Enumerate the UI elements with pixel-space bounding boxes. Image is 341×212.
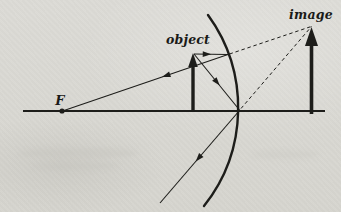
- focal-point-label: F: [55, 93, 64, 108]
- object-arrow-head: [188, 53, 198, 67]
- object-label: object: [166, 32, 210, 47]
- image-arrow-head: [305, 27, 318, 46]
- focal-point-dot: [59, 108, 64, 113]
- image-arrow: [305, 27, 318, 114]
- reflected-ray-through-focus: [64, 55, 228, 111]
- image-label: image: [289, 7, 333, 22]
- object-arrow: [188, 53, 198, 112]
- virtual-ray-extension-upper: [230, 27, 312, 55]
- incident-ray-parallel-to-axis-arrowhead: [203, 51, 212, 57]
- reflected-ray-through-focus-arrowhead: [162, 72, 171, 78]
- ray-diagram-figure: F object image: [0, 0, 341, 212]
- virtual-ray-extension-lower: [241, 27, 312, 109]
